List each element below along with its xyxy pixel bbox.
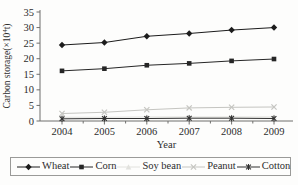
svg-text:2008: 2008 xyxy=(221,126,242,137)
svg-text:5: 5 xyxy=(29,100,34,111)
svg-text:25: 25 xyxy=(24,38,35,49)
cotton-marker-icon xyxy=(236,162,261,172)
svg-text:30: 30 xyxy=(24,22,35,33)
legend-item-peanut: Peanut xyxy=(181,161,236,172)
svg-text:15: 15 xyxy=(24,69,35,80)
wheat-marker-icon xyxy=(16,162,41,172)
svg-text:10: 10 xyxy=(24,84,35,95)
corn-marker-icon xyxy=(69,162,94,172)
x-axis-title: Year xyxy=(157,139,177,150)
legend-item-wheat: Wheat xyxy=(16,161,69,172)
y-axis-title: Carbon storage(×104t) xyxy=(1,23,13,108)
legend-label-peanut: Peanut xyxy=(207,161,236,172)
chart-figure: 05101520253035200420052006200720082009Ye… xyxy=(0,0,298,185)
legend-item-corn: Corn xyxy=(69,161,116,172)
svg-text:2007: 2007 xyxy=(179,126,200,137)
chart-svg: 05101520253035200420052006200720082009Ye… xyxy=(0,0,298,153)
svg-text:2004: 2004 xyxy=(52,126,74,137)
chart-legend: Wheat Corn Soy bean Peanut Cotton xyxy=(10,157,291,176)
svg-text:2005: 2005 xyxy=(94,126,115,137)
peanut-marker-icon xyxy=(181,162,206,172)
axes-layer: 05101520253035200420052006200720082009Ye… xyxy=(1,7,293,151)
legend-item-cotton: Cotton xyxy=(236,161,291,172)
legend-label-cotton: Cotton xyxy=(262,161,291,172)
svg-text:35: 35 xyxy=(24,7,35,18)
svg-text:20: 20 xyxy=(24,53,35,64)
svg-text:2009: 2009 xyxy=(264,126,285,137)
legend-item-soybean: Soy bean xyxy=(116,161,181,172)
soybean-marker-icon xyxy=(116,162,141,172)
legend-label-wheat: Wheat xyxy=(42,161,69,172)
legend-label-corn: Corn xyxy=(95,161,116,172)
svg-text:2006: 2006 xyxy=(136,126,157,137)
series-layer xyxy=(59,24,277,121)
legend-label-soybean: Soy bean xyxy=(142,161,181,172)
svg-text:0: 0 xyxy=(29,116,34,127)
